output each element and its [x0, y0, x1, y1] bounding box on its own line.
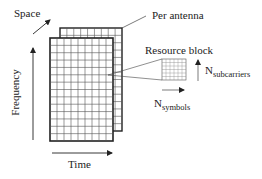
per-antenna-label: Per antenna: [152, 10, 204, 21]
time-label: Time: [68, 159, 91, 170]
n-subcarriers-main: N: [205, 64, 213, 76]
n-symbols-subscript: symbols: [162, 102, 190, 112]
resource-block-box: [162, 59, 186, 80]
per-antenna-leader-line: [122, 16, 146, 28]
n-symbols-main: N: [154, 97, 162, 109]
diagram-graphics: [0, 0, 262, 179]
n-subcarriers-label: Nsubcarriers: [205, 65, 250, 76]
resource-block-label: Resource block: [145, 45, 213, 56]
space-label: Space: [14, 8, 40, 19]
space-arrow-icon: [33, 20, 50, 34]
n-subcarriers-subscript: subcarriers: [213, 69, 250, 79]
resource-grid-diagram: Space Per antenna Resource block Nsubcar…: [0, 0, 262, 179]
n-symbols-label: Nsymbols: [154, 98, 190, 109]
front-antenna-grid: [50, 38, 113, 141]
frequency-label: Frequency: [10, 69, 21, 115]
